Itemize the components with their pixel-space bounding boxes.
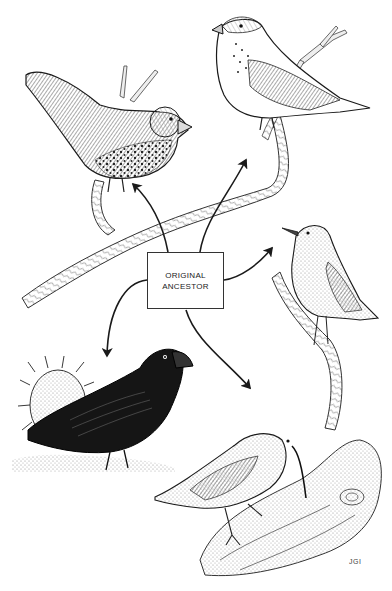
ancestor-label-line1: ORIGINAL [165, 270, 206, 281]
bird-top-right-pale-finch [212, 17, 370, 130]
artist-signature: JGI [349, 558, 361, 565]
original-ancestor-box: ORIGINAL ANCESTOR [147, 252, 224, 309]
bird-right-warbler-finch [282, 226, 378, 346]
arrow-to-right [224, 248, 272, 280]
arrow-to-bottom-right [186, 310, 250, 388]
ancestor-label-line2: ANCESTOR [162, 281, 209, 292]
arrow-to-bottom-left [107, 280, 147, 356]
bird-top-left-spotted-finch [26, 72, 192, 192]
